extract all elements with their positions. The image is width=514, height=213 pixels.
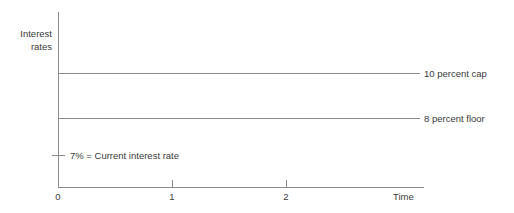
- x-tick-label-0: 0: [43, 191, 73, 203]
- x-axis-title: Time: [393, 191, 414, 203]
- interest-rate-cap-floor-chart: Interest rates 0 1 2 10 percent cap 8 pe…: [0, 0, 514, 213]
- x-axis-line: [58, 187, 424, 188]
- current-rate-tick-mark: [52, 155, 65, 156]
- cap-line-label: 10 percent cap: [424, 68, 487, 79]
- floor-line-label: 8 percent floor: [424, 113, 485, 124]
- x-tick-mark-0: [58, 180, 59, 187]
- x-tick-label-1: 1: [157, 191, 187, 203]
- x-tick-label-2: 2: [271, 191, 301, 203]
- cap-line: [58, 73, 420, 74]
- y-axis-title-line-2: rates: [0, 41, 52, 54]
- floor-line: [58, 118, 420, 119]
- current-rate-label: 7% = Current interest rate: [70, 150, 179, 161]
- x-tick-mark-2: [286, 180, 287, 187]
- y-axis-title-line-1: Interest: [0, 28, 52, 41]
- y-axis-line: [58, 12, 59, 187]
- y-axis-title: Interest rates: [0, 28, 52, 53]
- x-tick-mark-1: [172, 180, 173, 187]
